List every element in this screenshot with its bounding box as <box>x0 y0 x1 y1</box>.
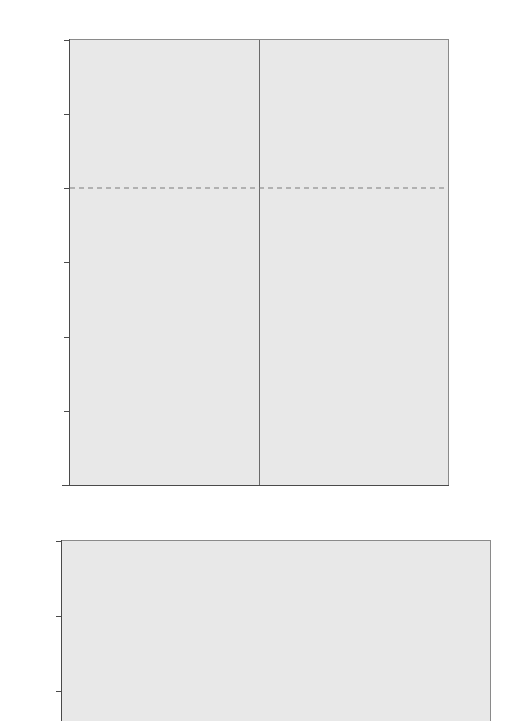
percentage-unemployment-chart <box>0 525 524 721</box>
bottom-chart-svg <box>0 525 524 721</box>
changing-unemployment-chart <box>0 0 524 510</box>
top-chart-svg <box>0 0 524 510</box>
